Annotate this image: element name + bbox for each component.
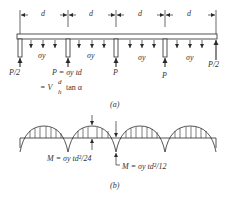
reaction-label-right: P/2	[208, 61, 219, 69]
stress-label-1: σy	[38, 52, 46, 60]
moment-support-label: M = σy td²/12	[122, 163, 166, 171]
span-label-4: d	[187, 10, 191, 18]
caption-b: (b)	[110, 181, 119, 190]
beam	[17, 34, 217, 39]
span-label-1: d	[41, 10, 45, 18]
formula-frac-num: d	[58, 79, 62, 86]
moment-indicators	[92, 115, 120, 165]
reaction-label-mid-2: P	[162, 72, 167, 80]
stress-label-3: σy	[138, 54, 146, 62]
span-label-2: d	[89, 10, 93, 18]
stress-label-2: σy	[87, 52, 95, 60]
formula-frac-den: h	[58, 89, 62, 96]
moment-midspan-label: M = σy td²/24	[47, 155, 91, 163]
span-label-3: d	[138, 10, 142, 18]
reaction-formula: P = σy td	[52, 69, 82, 77]
reaction-label-mid-1: P	[113, 69, 118, 77]
stress-label-4: σy	[186, 54, 194, 62]
caption-a: (a)	[110, 100, 119, 109]
formula-line2-prefix: = V	[40, 84, 52, 92]
reaction-label-left: P/2	[9, 69, 20, 77]
formula-line2-suffix: tan α	[66, 84, 82, 92]
moment-diagram	[20, 126, 216, 152]
